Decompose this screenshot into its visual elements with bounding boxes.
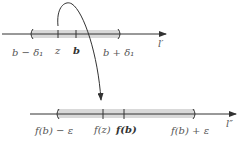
- label-l-double-prime: l″: [226, 118, 233, 129]
- label-fz: f(z): [93, 124, 111, 135]
- label-fb: f(b): [115, 124, 137, 135]
- bottom-number-line: f(b) − ε f(z) f(b) f(b) + ε l″: [30, 109, 236, 136]
- top-number-line: b − δ₁ z b b + δ₁ l′: [2, 29, 166, 58]
- label-z: z: [54, 45, 61, 56]
- label-b-plus-delta: b + δ₁: [103, 47, 134, 58]
- continuity-diagram: b − δ₁ z b b + δ₁ l′ f(b) − ε f(z) f(b) …: [0, 0, 240, 141]
- label-fb-minus-epsilon: f(b) − ε: [34, 125, 73, 136]
- label-l-prime: l′: [158, 38, 164, 49]
- label-b-minus-delta: b − δ₁: [12, 47, 43, 58]
- label-b: b: [73, 45, 80, 56]
- label-fb-plus-epsilon: f(b) + ε: [170, 125, 209, 136]
